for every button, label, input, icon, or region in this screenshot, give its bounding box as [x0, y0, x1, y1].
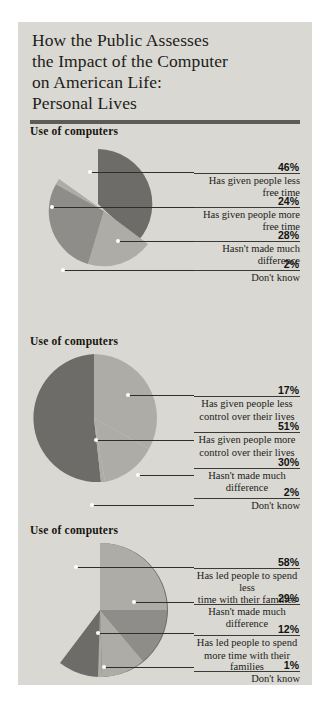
page-title-line-3: on American Life:	[32, 72, 302, 93]
section-label-1: Use of computers	[30, 125, 118, 137]
label-pct-2d: 2%	[194, 486, 300, 498]
label-pct-1d: 2%	[194, 258, 300, 270]
label-desc-3a-line1: Has led people to spend less	[194, 569, 300, 593]
label-pct-2a: 17%	[194, 384, 300, 396]
pie-chart-2	[32, 352, 172, 484]
pie-marker-1b	[50, 205, 54, 209]
label-item-2b: 51% Has given people more control over t…	[194, 420, 300, 458]
leader-line-2a	[128, 395, 194, 396]
pie-chart-1-svg	[26, 146, 176, 281]
leader-line-1c	[118, 241, 194, 242]
leader-line-2d	[92, 505, 194, 506]
page-title: How the Public Assesses the Impact of th…	[32, 30, 302, 114]
leader-line-2b	[96, 440, 194, 441]
pie-2-slice-51	[33, 354, 101, 482]
label-pct-2b: 51%	[194, 420, 300, 432]
page-title-line-1: How the Public Assesses	[32, 30, 302, 51]
label-pct-3b: 29%	[194, 592, 300, 604]
label-desc-2b-line1: Has given people more	[194, 433, 300, 446]
label-pct-1a: 46%	[194, 161, 300, 173]
pie-marker-3d	[102, 665, 106, 669]
leader-line-3d	[104, 667, 194, 668]
pie-marker-3c	[96, 631, 100, 635]
page-title-line-2: the Impact of the Computer	[32, 51, 302, 72]
label-pct-3c: 12%	[194, 623, 300, 635]
pie-marker-2d	[90, 503, 94, 507]
label-pct-2c: 30%	[194, 456, 300, 468]
pie-marker-1d	[61, 268, 65, 272]
pie-marker-3a	[74, 565, 78, 569]
section-rule-1	[30, 120, 300, 124]
label-desc-1d: Don't know	[194, 271, 300, 284]
leader-line-3b	[134, 602, 194, 603]
leader-line-2c	[138, 475, 194, 476]
label-item-1b: 24% Has given people more free time	[194, 195, 300, 232]
leader-line-3a	[76, 567, 194, 568]
pie-marker-2b	[94, 438, 98, 442]
pie-chart-3-svg	[32, 541, 182, 681]
pie-chart-3	[32, 541, 182, 681]
leader-line-3c	[98, 633, 194, 634]
label-item-1d: 2% Don't know	[194, 258, 300, 284]
pie-marker-2a	[126, 393, 130, 397]
pie-marker-2c	[136, 473, 140, 477]
page-title-line-4: Personal Lives	[32, 93, 302, 114]
label-item-2a: 17% Has given people less control over t…	[194, 384, 300, 422]
pie-marker-1c	[116, 239, 120, 243]
label-item-3d: 1% Don't know	[194, 659, 300, 685]
poster-page: How the Public Assesses the Impact of th…	[18, 22, 312, 685]
label-desc-2a-line1: Has given people less	[194, 397, 300, 410]
label-item-1a: 46% Has given people less free time	[194, 161, 300, 198]
label-pct-1c: 28%	[194, 229, 300, 241]
label-desc-2d: Don't know	[194, 499, 300, 512]
label-item-2d: 2% Don't know	[194, 486, 300, 512]
label-desc-3d: Don't know	[194, 672, 300, 685]
leader-line-1a	[90, 172, 194, 173]
label-desc-3c-line1: Has led people to spend	[194, 636, 300, 649]
section-label-2: Use of computers	[30, 335, 118, 347]
label-pct-3d: 1%	[194, 659, 300, 671]
leader-line-1b	[52, 207, 194, 208]
pie-chart-1	[26, 146, 176, 281]
label-pct-1b: 24%	[194, 195, 300, 207]
section-label-3: Use of computers	[30, 524, 118, 536]
pie-chart-2-svg	[32, 352, 172, 484]
pie-marker-3b	[132, 600, 136, 604]
pie-marker-1a	[88, 170, 92, 174]
leader-line-1d	[63, 270, 194, 271]
label-pct-3a: 58%	[194, 556, 300, 568]
